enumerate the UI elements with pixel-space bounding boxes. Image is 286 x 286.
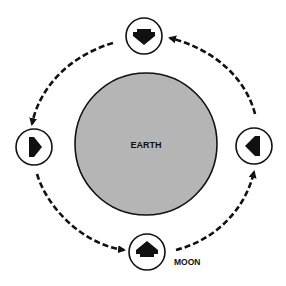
moon-right	[236, 128, 272, 164]
earth: EARTH	[75, 73, 217, 215]
moon-orbit-diagram: EARTH MOON	[0, 0, 286, 286]
moon-bottom	[129, 234, 165, 270]
moon-left	[16, 129, 52, 165]
moon-top	[126, 18, 162, 54]
earth-label: EARTH	[131, 140, 162, 150]
moon-label: MOON	[174, 257, 200, 267]
